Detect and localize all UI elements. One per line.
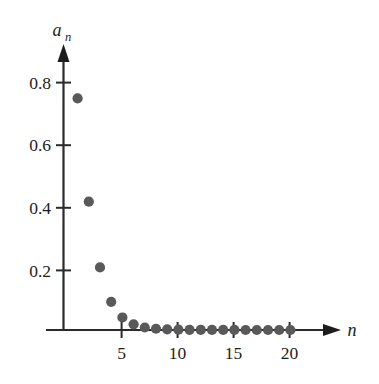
x-tick-label-2: 15 bbox=[225, 343, 243, 363]
data-point bbox=[185, 325, 195, 335]
y-tick-label-0: 0.2 bbox=[29, 261, 51, 281]
x-axis-title: n bbox=[348, 320, 357, 340]
data-point bbox=[196, 325, 206, 335]
y-tick-label-1: 0.4 bbox=[29, 198, 51, 218]
data-point bbox=[218, 325, 228, 335]
data-point bbox=[241, 325, 251, 335]
data-point bbox=[129, 319, 139, 329]
data-point bbox=[162, 324, 172, 334]
data-point bbox=[263, 325, 273, 335]
y-axis-title-subscript: n bbox=[65, 30, 71, 44]
x-tick-label-0: 5 bbox=[117, 343, 126, 363]
y-tick-label-2: 0.6 bbox=[29, 135, 51, 155]
data-point bbox=[229, 325, 239, 335]
chart-canvas: 0.2 0.4 0.6 0.8 5 10 15 20 a n n bbox=[0, 0, 379, 384]
x-tick-label-1: 10 bbox=[169, 343, 187, 363]
data-point bbox=[73, 93, 83, 103]
data-point bbox=[140, 322, 150, 332]
data-point bbox=[252, 325, 262, 335]
y-tick-label-3: 0.8 bbox=[29, 73, 51, 93]
data-point bbox=[84, 197, 94, 207]
data-point bbox=[151, 324, 161, 334]
y-axis-title-base: a bbox=[53, 20, 62, 40]
data-point bbox=[274, 325, 284, 335]
x-tick-label-3: 20 bbox=[281, 343, 299, 363]
data-point bbox=[95, 262, 105, 272]
data-point bbox=[207, 325, 217, 335]
data-point bbox=[117, 312, 127, 322]
data-point bbox=[285, 325, 295, 335]
sequence-scatter-chart: 0.2 0.4 0.6 0.8 5 10 15 20 a n n bbox=[0, 0, 379, 384]
data-point bbox=[106, 297, 116, 307]
data-point bbox=[173, 325, 183, 335]
